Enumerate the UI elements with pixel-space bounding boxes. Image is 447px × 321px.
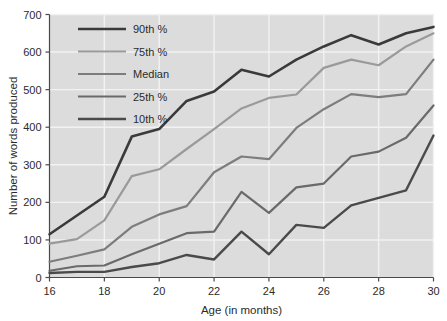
y-tick-label: 200 bbox=[23, 196, 41, 208]
legend-label: 25th % bbox=[133, 91, 167, 103]
y-tick-label: 300 bbox=[23, 159, 41, 171]
legend-label: Median bbox=[133, 68, 169, 80]
legend-label: 90th % bbox=[133, 23, 167, 35]
y-axis-title: Number of words produced bbox=[7, 77, 19, 216]
y-tick-label: 400 bbox=[23, 121, 41, 133]
x-tick-label: 18 bbox=[98, 285, 110, 297]
chart-container: 01002003004005006007001618202224262830 A… bbox=[0, 0, 447, 321]
x-tick-label: 16 bbox=[43, 285, 55, 297]
line-chart: 01002003004005006007001618202224262830 A… bbox=[0, 0, 447, 321]
y-tick-label: 500 bbox=[23, 84, 41, 96]
y-tick-label: 600 bbox=[23, 46, 41, 58]
x-tick-label: 30 bbox=[427, 285, 439, 297]
x-tick-label: 24 bbox=[263, 285, 275, 297]
x-tick-label: 20 bbox=[153, 285, 165, 297]
x-tick-label: 28 bbox=[373, 285, 385, 297]
plot-area-background bbox=[50, 15, 434, 278]
y-tick-label: 700 bbox=[23, 9, 41, 21]
x-axis-title: Age (in months) bbox=[201, 304, 282, 316]
legend-label: 75th % bbox=[133, 46, 167, 58]
y-tick-label: 0 bbox=[35, 272, 41, 284]
x-tick-label: 26 bbox=[318, 285, 330, 297]
x-tick-label: 22 bbox=[208, 285, 220, 297]
legend-label: 10th % bbox=[133, 113, 167, 125]
y-tick-label: 100 bbox=[23, 234, 41, 246]
